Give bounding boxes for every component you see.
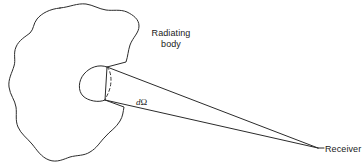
radiation-solid-angle-diagram: Radiating body dΩ Receiver — [0, 0, 363, 168]
solid-angle-omega-symbol: Ω — [141, 97, 148, 107]
radiating-body-label-line1: Radiating — [143, 28, 199, 39]
solid-angle-label: dΩ — [136, 97, 147, 108]
radiating-body-label-line2: body — [143, 39, 199, 50]
diagram-canvas — [0, 0, 363, 168]
receiver-label: Receiver — [325, 144, 361, 155]
emitting-aperture-ellipse — [79, 66, 107, 102]
radiating-body-label: Radiating body — [143, 28, 199, 50]
radiating-body-blob — [9, 4, 139, 161]
